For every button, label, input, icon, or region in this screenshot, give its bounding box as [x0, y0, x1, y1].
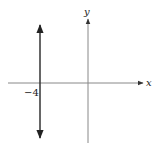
- y-axis-label: y: [83, 6, 90, 17]
- coordinate-plane: x y −4: [0, 0, 156, 145]
- x-axis-label: x: [146, 77, 152, 88]
- tick-label-minus-4: −4: [24, 87, 39, 98]
